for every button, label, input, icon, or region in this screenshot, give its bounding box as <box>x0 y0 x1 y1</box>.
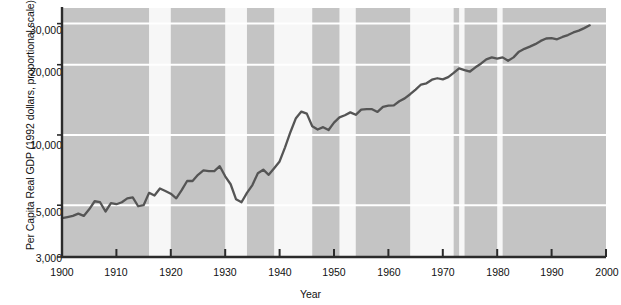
event-band-first-oil-price-shock <box>459 8 464 257</box>
plot-background <box>62 8 606 257</box>
event-band-second-oil-price-shock <box>497 8 502 257</box>
event-band-vietnam-war <box>410 8 454 257</box>
event-band-world-war-ii <box>274 8 312 257</box>
chart-figure: Per Capita Real GDP (1992 dollars, propo… <box>0 0 621 305</box>
event-band-great-depression <box>225 8 247 257</box>
event-band-korean-war <box>339 8 355 257</box>
chart-canvas <box>0 0 621 305</box>
event-band-world-war-i <box>149 8 171 257</box>
